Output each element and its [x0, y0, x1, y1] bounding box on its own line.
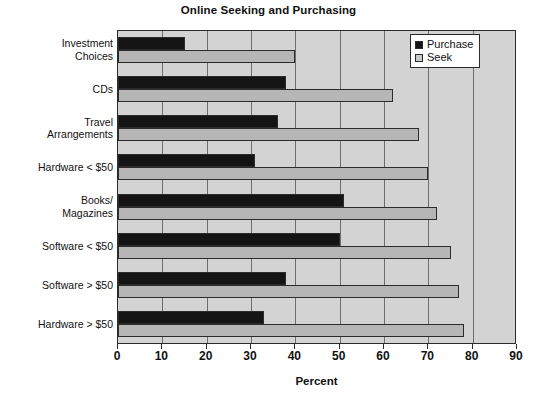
bar-purchase — [118, 311, 264, 324]
chart-legend: PurchaseSeek — [410, 34, 480, 68]
y-axis-label: Software < $50 — [1, 240, 113, 252]
bar-group — [118, 306, 515, 345]
bar-purchase — [118, 154, 255, 167]
bar-seek — [118, 207, 437, 220]
x-tick-label-40: 40 — [288, 349, 301, 363]
legend-item-purchase: Purchase — [415, 38, 473, 51]
bar-purchase — [118, 76, 286, 89]
bar-group — [118, 188, 515, 227]
y-axis-label: CDs — [1, 83, 113, 95]
legend-item-seek: Seek — [415, 51, 473, 64]
bar-group — [118, 110, 515, 149]
bar-purchase — [118, 233, 340, 246]
bar-purchase — [118, 194, 344, 207]
bar-seek — [118, 89, 393, 102]
bar-seek — [118, 285, 459, 298]
x-tick-label-60: 60 — [376, 349, 389, 363]
x-tick-label-10: 10 — [155, 349, 168, 363]
bar-purchase — [118, 272, 286, 285]
bar-seek — [118, 324, 464, 337]
bar-purchase — [118, 37, 185, 50]
y-axis-label: Books/ Magazines — [1, 194, 113, 219]
bar-group — [118, 70, 515, 109]
x-tick-label-30: 30 — [243, 349, 256, 363]
bar-seek — [118, 246, 451, 259]
bar-seek — [118, 167, 428, 180]
bar-group — [118, 267, 515, 306]
legend-label: Seek — [427, 51, 452, 64]
y-axis-label: Hardware > $50 — [1, 318, 113, 330]
y-axis-label: Hardware < $50 — [1, 161, 113, 173]
x-tick-label-20: 20 — [199, 349, 212, 363]
bar-purchase — [118, 115, 278, 128]
filled-square-black-icon — [415, 41, 423, 49]
y-axis-category-labels: Investment ChoicesCDsTravel Arrangements… — [0, 30, 113, 344]
filled-square-gray-icon — [415, 54, 423, 62]
plot-area — [117, 30, 516, 344]
x-tick-label-0: 0 — [114, 349, 121, 363]
bar-group — [118, 149, 515, 188]
x-tick-label-70: 70 — [421, 349, 434, 363]
chart-title: Online Seeking and Purchasing — [0, 4, 537, 16]
x-axis-ticks: 0102030405060708090 — [117, 344, 516, 354]
x-axis-title: Percent — [117, 375, 516, 387]
x-tick-label-90: 90 — [509, 349, 522, 363]
x-tick-label-50: 50 — [332, 349, 345, 363]
y-axis-label: Software > $50 — [1, 279, 113, 291]
y-axis-label: Investment Choices — [1, 37, 113, 62]
x-tick-label-80: 80 — [465, 349, 478, 363]
chart-figure: Online Seeking and Purchasing Investment… — [0, 0, 537, 403]
bar-seek — [118, 50, 295, 63]
bar-seek — [118, 128, 419, 141]
bar-group — [118, 227, 515, 266]
y-axis-label: Travel Arrangements — [1, 116, 113, 141]
legend-label: Purchase — [427, 38, 473, 51]
